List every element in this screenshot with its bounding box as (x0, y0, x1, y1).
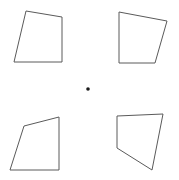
quadrilateral-top-left (14, 11, 62, 62)
figure-canvas (0, 0, 179, 180)
quadrilateral-top-right (119, 12, 167, 63)
quadrilaterals-figure (0, 0, 179, 180)
quadrilateral-bottom-right (117, 114, 163, 170)
quadrilateral-bottom-left (10, 117, 59, 170)
center-dot (86, 87, 90, 91)
